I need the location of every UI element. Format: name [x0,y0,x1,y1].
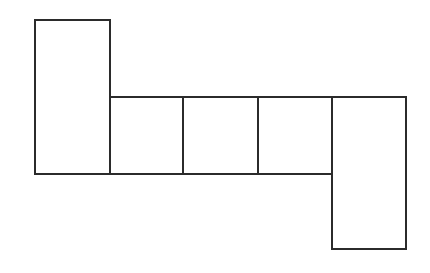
left-tall-rect [35,20,110,174]
right-tall-rect [332,97,406,249]
middle-square-3 [258,97,332,174]
middle-square-1 [110,97,183,174]
middle-square-2 [183,97,258,174]
diagram-shapes [35,20,406,249]
net-diagram [0,0,430,273]
